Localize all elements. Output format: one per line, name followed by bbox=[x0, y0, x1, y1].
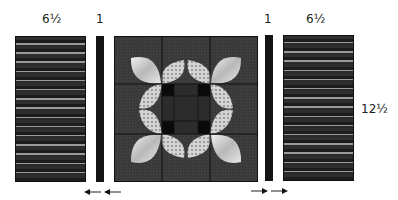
left-panel-width-label: 6½ bbox=[42, 13, 61, 25]
left-striped-panel bbox=[15, 36, 86, 182]
right-arrow-icon bbox=[250, 186, 268, 196]
cornerstone bbox=[198, 84, 210, 96]
right-panel-width-label: 6½ bbox=[306, 13, 325, 25]
cornerstone bbox=[198, 121, 210, 134]
left-strip-width-label: 1 bbox=[96, 13, 104, 25]
flower-block-pattern bbox=[114, 36, 258, 182]
right-sashing-strip bbox=[265, 35, 273, 181]
left-sashing-strip bbox=[96, 36, 104, 182]
left-arrow-icon bbox=[84, 187, 102, 197]
left-arrow-icon bbox=[104, 187, 122, 197]
cornerstone bbox=[162, 121, 174, 134]
center-quilt-block bbox=[114, 36, 258, 182]
right-strip-width-label: 1 bbox=[264, 13, 272, 25]
right-arrow-icon bbox=[270, 186, 288, 196]
right-striped-panel bbox=[283, 35, 354, 181]
cornerstone bbox=[162, 84, 174, 96]
panel-height-label: 12½ bbox=[361, 103, 388, 115]
